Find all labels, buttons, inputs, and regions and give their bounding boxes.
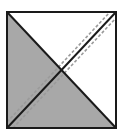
block-illustration (0, 0, 123, 138)
quilt-block-diagram (0, 0, 123, 138)
